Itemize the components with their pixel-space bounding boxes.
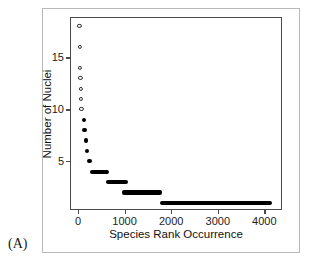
panel-label: (A)	[8, 236, 27, 252]
y-axis-tick-mark	[66, 109, 71, 110]
y-axis-tick-label: 15	[52, 52, 64, 63]
plot-canvas	[71, 18, 281, 209]
data-point-run	[85, 149, 89, 153]
x-axis-tick-label: 2000	[159, 216, 183, 227]
x-axis-tick-mark	[125, 209, 126, 214]
data-point-run	[90, 169, 109, 173]
plot-frame: Number of Nuclei 5101501000200030004000	[70, 17, 282, 210]
y-axis-tick-mark	[66, 57, 71, 58]
y-axis-tick-label: 5	[58, 156, 64, 167]
x-axis-tick-label: 4000	[252, 216, 276, 227]
x-axis-tick-label: 3000	[206, 216, 230, 227]
data-point-open	[79, 97, 83, 101]
data-point-run	[82, 128, 86, 132]
x-axis-title: Species Rank Occurrence	[70, 228, 282, 240]
data-point-run	[82, 118, 86, 122]
x-axis-tick-label: 0	[75, 216, 81, 227]
data-point-open	[78, 76, 82, 80]
x-axis-tick-mark	[218, 209, 219, 214]
data-point-run	[122, 190, 162, 194]
x-axis-tick-mark	[171, 209, 172, 214]
y-axis-tick-mark	[66, 161, 71, 162]
y-axis-tick-label: 10	[52, 104, 64, 115]
data-point-open	[79, 107, 83, 111]
data-point-open	[78, 45, 82, 49]
data-point-run	[106, 180, 128, 184]
data-point-run	[160, 201, 272, 205]
data-point-open	[78, 66, 82, 70]
data-point-run	[84, 138, 88, 142]
data-point-run	[87, 159, 92, 163]
data-point-open	[79, 86, 83, 90]
x-axis-tick-mark	[78, 209, 79, 214]
x-axis-tick-mark	[264, 209, 265, 214]
x-axis-tick-label: 1000	[112, 216, 136, 227]
data-point-open	[77, 24, 81, 28]
